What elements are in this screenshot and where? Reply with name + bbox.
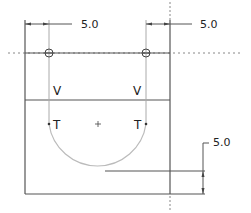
tangent-point-right[interactable] — [145, 123, 148, 126]
dimension-value[interactable]: 5.0 — [200, 18, 218, 31]
construction-lines — [49, 20, 146, 124]
tangent-constraint-label-left[interactable]: T — [52, 118, 61, 132]
dimension-value[interactable]: 5.0 — [213, 136, 231, 149]
arrow-icon — [164, 23, 170, 26]
constraint-labels: V V T T — [52, 84, 142, 132]
arrow-icon — [25, 23, 31, 26]
arrow-icon — [202, 188, 205, 194]
arc[interactable] — [49, 124, 146, 166]
centerlines — [8, 2, 242, 211]
vertical-constraint-label-right[interactable]: V — [133, 84, 142, 98]
dimension-right-bottom[interactable]: 5.0 — [202, 136, 231, 194]
dimension-value[interactable]: 5.0 — [81, 18, 99, 31]
tangent-constraint-label-right[interactable]: T — [133, 118, 142, 132]
dimension-top-right[interactable]: 5.0 — [146, 18, 218, 31]
sketch-outline — [25, 20, 205, 194]
vertical-constraint-label-left[interactable]: V — [53, 84, 62, 98]
arrow-icon — [202, 171, 205, 177]
arc-center-icon[interactable] — [95, 121, 101, 127]
dimension-top-left[interactable]: 5.0 — [25, 18, 99, 31]
arc-points — [48, 121, 148, 127]
arrow-icon — [43, 23, 49, 26]
tangent-point-left[interactable] — [48, 123, 51, 126]
arrow-icon — [146, 23, 152, 26]
sketch-canvas[interactable]: 5.0 5.0 5.0 V V T T — [0, 0, 251, 213]
